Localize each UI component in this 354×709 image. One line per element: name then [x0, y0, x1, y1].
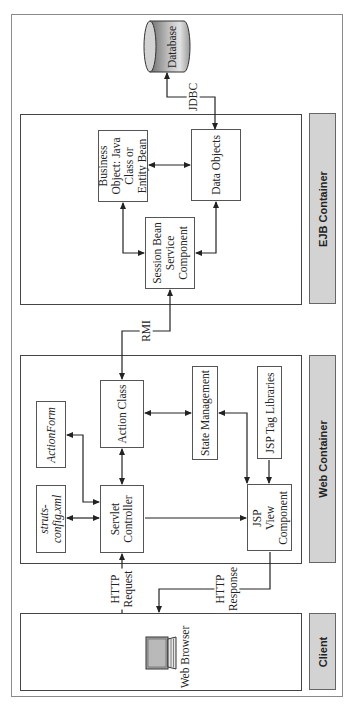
struts-config-node: struts- config.xml [36, 485, 66, 553]
http-request-edge-label: HTTP Request [109, 568, 134, 609]
http-response-edge-label: HTTP Response [214, 565, 239, 613]
jsp-view-node: JSP View Component [247, 484, 292, 551]
state-management-node: State Management [192, 366, 218, 460]
jsp-tag-libraries-node: JSP Tag Libraries [257, 366, 282, 459]
jdbc-edge-label: JDBC [187, 81, 200, 113]
web-browser-node: Web Browser [140, 626, 196, 688]
action-form-node: ActionForm [36, 401, 66, 468]
computer-icon [145, 636, 179, 670]
session-bean-node: Session Bean Service Component [145, 217, 195, 289]
action-class-node: Action Class [100, 380, 144, 448]
servlet-controller-node: Servlet Controller [100, 485, 144, 553]
database-node: Database [143, 20, 191, 73]
rmi-edge-label: RMI [140, 318, 153, 344]
connector-lines [0, 0, 354, 709]
business-object-node: Business Object: Java Class or Entity Be… [98, 130, 148, 202]
data-objects-node: Data Objects [191, 129, 241, 201]
